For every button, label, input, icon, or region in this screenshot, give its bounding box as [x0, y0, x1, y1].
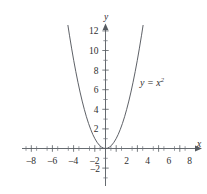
y-axis-arrow-icon [103, 24, 109, 31]
x-tick-label--8: –8 [26, 156, 37, 166]
x-axis-label: x [196, 139, 202, 149]
x-tick-label--6: –6 [47, 156, 58, 166]
y-tick-label-10: 10 [89, 46, 99, 56]
curve-equation-base: y = x [139, 77, 161, 88]
curve-equation-exponent: 2 [161, 76, 165, 83]
y-tick-label-12: 12 [89, 26, 99, 36]
y-tick-label-6: 6 [94, 85, 99, 95]
y-axis-label: y [103, 12, 109, 22]
y-tick-label--2: –2 [90, 164, 101, 174]
curve-equation-label: y = x2 [139, 76, 165, 88]
x-tick-label--4: –4 [68, 156, 79, 166]
x-tick-label-4: 4 [145, 156, 150, 166]
x-tick-label-8: 8 [187, 156, 192, 166]
y-tick-label-2: 2 [94, 124, 99, 134]
graph-figure: –8 –6 –4 –2 2 4 6 8 2 4 6 8 10 12 –2 x y… [0, 0, 207, 194]
x-tick-label-6: 6 [167, 156, 172, 166]
parabola-plot: –8 –6 –4 –2 2 4 6 8 2 4 6 8 10 12 –2 x y… [0, 0, 207, 194]
y-tick-label-4: 4 [94, 105, 99, 115]
y-tick-label-8: 8 [94, 66, 99, 76]
x-tick-label-2: 2 [124, 156, 129, 166]
